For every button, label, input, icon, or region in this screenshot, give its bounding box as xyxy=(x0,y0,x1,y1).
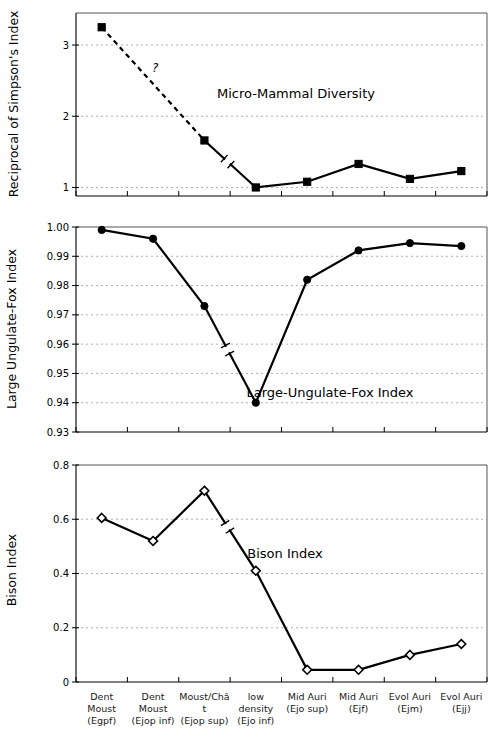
series-line-large-ungulate-fox-index xyxy=(102,230,462,403)
data-point-7 xyxy=(457,640,466,649)
data-point-0 xyxy=(98,24,105,31)
data-point-7 xyxy=(458,167,465,174)
data-point-5 xyxy=(354,665,363,674)
y-tick-label-3: 0.6 xyxy=(53,514,69,525)
data-point-2 xyxy=(201,302,208,309)
x-axis-label-top-7: Evol Auri xyxy=(436,691,487,703)
x-axis-label-0: Dent Moust(Egpf) xyxy=(76,691,127,727)
y-tick-label-2: 0.4 xyxy=(53,568,69,579)
x-axis-label-4: Mid Auri(Ejo sup) xyxy=(282,691,333,715)
data-point-0 xyxy=(98,226,105,233)
x-axis-label-bottom-6: (Ejm) xyxy=(384,703,435,715)
figure-root: 123?Micro-Mammal DiversityReciprocal of … xyxy=(0,0,503,737)
chart-svg-bison-index: 00.20.40.60.8Bison IndexBison Index xyxy=(0,452,503,687)
x-axis-label-top-5: Mid Auri xyxy=(333,691,384,703)
y-axis-title-micro-mammal-diversity: Reciprocal of Simpson's Index xyxy=(6,11,21,198)
x-axis-label-bottom-3: (Ejo inf) xyxy=(230,715,281,727)
data-point-0 xyxy=(97,513,106,522)
x-axis-label-top-4: Mid Auri xyxy=(282,691,333,703)
plot-title-micro-mammal-diversity: Micro-Mammal Diversity xyxy=(217,86,375,101)
data-point-6 xyxy=(406,650,415,659)
series-line-bison-index xyxy=(102,491,462,670)
x-axis-label-6: Evol Auri(Ejm) xyxy=(384,691,435,715)
x-axis-label-bottom-2: (Ejop sup) xyxy=(179,715,230,727)
series-segment-dashed xyxy=(102,27,205,140)
chart-panel-large-ungulate-fox-index: 0.930.940.950.960.970.980.991.00Large-Un… xyxy=(0,215,503,452)
x-axis-label-bottom-5: (Ejf) xyxy=(333,703,384,715)
missing-data-question-mark: ? xyxy=(152,61,159,75)
y-tick-label-1: 0.2 xyxy=(53,622,69,633)
data-point-5 xyxy=(355,160,362,167)
y-tick-label-1: 0.94 xyxy=(47,397,69,408)
y-tick-label-5: 0.98 xyxy=(47,280,69,291)
x-axis-label-1: Dent Moust(Ejop inf) xyxy=(127,691,178,727)
y-tick-label-4: 0.8 xyxy=(53,460,69,471)
data-point-3 xyxy=(252,184,259,191)
plot-title-bison-index: Bison Index xyxy=(247,546,323,561)
x-axis-category-labels: Dent Moust(Egpf)Dent Moust(Ejop inf)Mous… xyxy=(0,687,503,737)
chart-svg-micro-mammal-diversity: 123?Micro-Mammal DiversityReciprocal of … xyxy=(0,0,503,215)
x-axis-label-bottom-0: (Egpf) xyxy=(76,715,127,727)
y-tick-label-2: 3 xyxy=(63,40,69,51)
x-axis-label-top-6: Evol Auri xyxy=(384,691,435,703)
x-axis-label-bottom-1: (Ejop inf) xyxy=(127,715,178,727)
data-point-5 xyxy=(355,247,362,254)
data-point-1 xyxy=(149,235,156,242)
x-axis-label-top-0: Dent Moust xyxy=(76,691,127,715)
x-axis-label-bottom-7: (Ejj) xyxy=(436,703,487,715)
x-axis-label-5: Mid Auri(Ejf) xyxy=(333,691,384,715)
y-tick-label-4: 0.97 xyxy=(47,309,69,320)
x-axis-label-top-2: Moust/Châ t xyxy=(179,691,230,715)
plot-title-large-ungulate-fox-index: Large-Ungulate-Fox Index xyxy=(246,385,413,400)
x-axis-label-3: low density(Ejo inf) xyxy=(230,691,281,727)
chart-panel-micro-mammal-diversity: 123?Micro-Mammal DiversityReciprocal of … xyxy=(0,0,503,215)
y-tick-label-1: 2 xyxy=(63,111,69,122)
data-point-2 xyxy=(201,137,208,144)
series-break-gap xyxy=(225,159,230,163)
chart-panel-bison-index: 00.20.40.60.8Bison IndexBison Index xyxy=(0,452,503,687)
y-tick-label-0: 0.93 xyxy=(47,427,69,438)
y-tick-label-2: 0.95 xyxy=(47,368,69,379)
data-point-4 xyxy=(304,276,311,283)
data-point-6 xyxy=(406,240,413,247)
plot-frame xyxy=(76,13,487,196)
y-tick-label-6: 0.99 xyxy=(47,251,69,262)
y-tick-label-7: 1.00 xyxy=(47,222,69,233)
y-axis-title-large-ungulate-fox-index: Large Ungulate-Fox Index xyxy=(4,249,19,409)
x-axis-label-bottom-4: (Ejo sup) xyxy=(282,703,333,715)
y-axis-title-bison-index: Bison Index xyxy=(4,534,19,607)
y-tick-label-3: 0.96 xyxy=(47,339,69,350)
y-tick-label-0: 1 xyxy=(63,182,69,193)
y-tick-label-0: 0 xyxy=(63,677,69,687)
data-point-6 xyxy=(406,175,413,182)
x-axis-label-top-3: low density xyxy=(230,691,281,715)
x-axis-label-2: Moust/Châ t(Ejop sup) xyxy=(179,691,230,727)
plot-frame xyxy=(76,227,487,432)
series-break-gap xyxy=(226,347,229,353)
series-line-micro-mammal-diversity xyxy=(204,140,461,187)
data-point-4 xyxy=(303,665,312,674)
data-point-3 xyxy=(252,399,259,406)
data-point-4 xyxy=(304,178,311,185)
data-point-7 xyxy=(458,242,465,249)
x-axis-label-7: Evol Auri(Ejj) xyxy=(436,691,487,715)
x-axis-label-top-1: Dent Moust xyxy=(127,691,178,715)
chart-svg-large-ungulate-fox-index: 0.930.940.950.960.970.980.991.00Large-Un… xyxy=(0,215,503,452)
series-break-gap xyxy=(226,524,229,529)
